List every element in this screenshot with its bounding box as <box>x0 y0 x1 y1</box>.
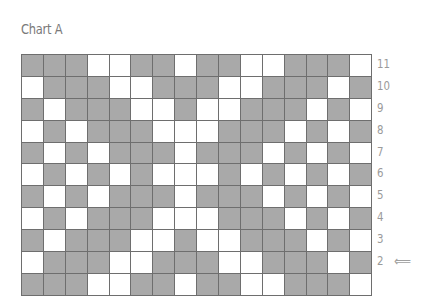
chart-cell-filled <box>328 99 350 121</box>
chart-cell-filled <box>131 121 153 143</box>
chart-row <box>22 252 372 274</box>
chart-cell-empty <box>88 55 110 77</box>
chart-cell-filled <box>22 186 44 208</box>
chart-cell-empty <box>285 121 307 143</box>
chart-row <box>22 143 372 165</box>
chart-cell-filled <box>153 274 175 296</box>
chart-cell-empty <box>285 208 307 230</box>
chart-cell-filled <box>328 274 350 296</box>
chart-cell-empty <box>241 55 263 77</box>
chart-row <box>22 99 372 121</box>
chart-cell-empty <box>350 274 372 296</box>
chart-cell-filled <box>263 252 285 274</box>
chart-cell-filled <box>88 252 110 274</box>
chart-cell-filled <box>44 208 66 230</box>
chart-cell-filled <box>153 186 175 208</box>
chart-cell-filled <box>66 55 88 77</box>
chart-cell-filled <box>263 164 285 186</box>
chart-cell-filled <box>66 99 88 121</box>
chart-cell-filled <box>350 252 372 274</box>
chart-cell-empty <box>285 164 307 186</box>
chart-row <box>22 164 372 186</box>
chart-cell-empty <box>88 186 110 208</box>
chart-cell-filled <box>241 186 263 208</box>
chart-cell-filled <box>44 164 66 186</box>
chart-cell-empty <box>219 77 241 99</box>
chart-cell-empty <box>175 208 197 230</box>
chart-cell-filled <box>285 186 307 208</box>
chart-cell-filled <box>88 121 110 143</box>
chart-cell-filled <box>110 121 132 143</box>
chart-cell-filled <box>197 252 219 274</box>
chart-cell-filled <box>66 186 88 208</box>
chart-cell-filled <box>241 208 263 230</box>
chart-cell-filled <box>131 55 153 77</box>
chart-cell-empty <box>328 252 350 274</box>
chart-cell-filled <box>219 55 241 77</box>
left-arrow-icon: ⟸ <box>394 251 411 273</box>
chart-cell-filled <box>241 143 263 165</box>
chart-cell-empty <box>131 252 153 274</box>
chart-cell-filled <box>44 77 66 99</box>
chart-cell-empty <box>197 99 219 121</box>
chart-cell-filled <box>328 55 350 77</box>
chart-cell-filled <box>175 252 197 274</box>
chart-cell-empty <box>350 186 372 208</box>
chart-cell-filled <box>241 99 263 121</box>
chart-cell-filled <box>263 77 285 99</box>
chart-cell-empty <box>263 186 285 208</box>
chart-cell-empty <box>307 99 329 121</box>
chart-cell-filled <box>131 186 153 208</box>
chart-cell-filled <box>110 99 132 121</box>
chart-cell-filled <box>307 121 329 143</box>
chart-cell-empty <box>328 208 350 230</box>
chart-cell-empty <box>175 164 197 186</box>
row-number: 8 <box>377 123 383 137</box>
chart-cell-empty <box>22 121 44 143</box>
chart-cell-empty <box>350 55 372 77</box>
chart-cell-filled <box>88 230 110 252</box>
row-label: 7 <box>377 142 390 164</box>
chart-cell-empty <box>307 143 329 165</box>
chart-cell-filled <box>219 208 241 230</box>
row-label: 5 <box>377 185 390 207</box>
chart-cell-empty <box>219 99 241 121</box>
row-number: 3 <box>377 232 383 246</box>
chart-cell-empty <box>110 77 132 99</box>
chart-cell-empty <box>219 252 241 274</box>
chart-cell-filled <box>88 77 110 99</box>
chart-cell-empty <box>22 208 44 230</box>
chart-cell-empty <box>197 121 219 143</box>
chart-cell-filled <box>66 77 88 99</box>
chart-cell-empty <box>307 230 329 252</box>
chart-cell-empty <box>350 143 372 165</box>
chart-cell-empty <box>22 252 44 274</box>
chart-cell-filled <box>285 230 307 252</box>
row-label: 2⟸ <box>377 251 390 273</box>
chart-cell-empty <box>44 143 66 165</box>
chart-cell-empty <box>44 99 66 121</box>
chart-cell-filled <box>219 143 241 165</box>
chart-cell-filled <box>350 77 372 99</box>
chart-cell-empty <box>153 208 175 230</box>
row-number: 2 <box>377 254 383 268</box>
chart-cell-empty <box>88 274 110 296</box>
row-label: 3 <box>377 229 390 251</box>
chart-cell-empty <box>197 164 219 186</box>
chart-cell-empty <box>110 55 132 77</box>
chart-cell-empty <box>350 230 372 252</box>
chart-cell-empty <box>175 186 197 208</box>
row-label: 10 <box>377 76 390 98</box>
chart-cell-filled <box>22 55 44 77</box>
chart-cell-filled <box>22 99 44 121</box>
chart-cell-filled <box>219 186 241 208</box>
chart-cell-filled <box>66 252 88 274</box>
chart-cell-filled <box>263 230 285 252</box>
chart-cell-empty <box>175 274 197 296</box>
chart-cell-filled <box>175 77 197 99</box>
chart-cell-empty <box>131 77 153 99</box>
chart-cell-empty <box>197 208 219 230</box>
chart-cell-filled <box>241 121 263 143</box>
chart-cell-filled <box>22 274 44 296</box>
row-number: 5 <box>377 188 383 202</box>
